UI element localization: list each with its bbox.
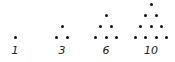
dot [150,25,153,28]
dot [61,25,64,28]
label-figure-1: 1 [12,45,19,57]
dot [105,36,108,39]
dot [144,14,147,17]
dot [55,36,58,39]
dot [155,14,158,17]
dot [139,25,142,28]
label-figure-6: 6 [103,45,110,57]
label-figure-10: 10 [144,45,158,57]
dot [155,36,158,39]
dot [150,3,153,6]
dot [105,14,108,17]
dot [94,36,97,39]
dot [134,36,137,39]
label-figure-3: 3 [59,45,66,57]
dot [14,36,17,39]
dot [115,36,118,39]
dot [165,36,168,39]
dot [110,25,113,28]
dot [160,25,163,28]
dot [66,36,69,39]
dot [144,36,147,39]
dot [99,25,102,28]
